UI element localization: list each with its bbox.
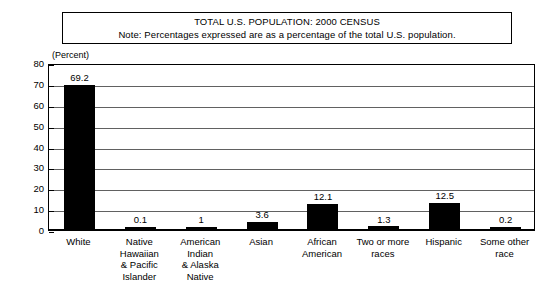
x-axis-category-label-line: Islander xyxy=(109,271,170,283)
bar-value-label: 12.5 xyxy=(414,190,475,201)
x-axis-category-label: Some otherrace xyxy=(474,236,535,259)
x-axis-category-label-line: Asian xyxy=(231,236,292,248)
x-axis-category-label-line: American xyxy=(170,236,231,248)
x-axis-category-label: Two or moreraces xyxy=(352,236,413,259)
chart-note: Note: Percentages expressed are as a per… xyxy=(118,28,455,41)
x-axis-category-label-line: race xyxy=(474,248,535,260)
y-axis-tick-label: 80 xyxy=(14,59,44,69)
chart-title: TOTAL U.S. POPULATION: 2000 CENSUS xyxy=(194,15,380,28)
x-axis-category-label-line: Some other xyxy=(474,236,535,248)
x-axis-category-label-line: & Pacific xyxy=(109,259,170,271)
x-axis-category-label: NativeHawaiian& PacificIslander xyxy=(109,236,170,282)
bar-value-label: 3.6 xyxy=(232,209,293,220)
x-axis-category-label-line: Native xyxy=(109,236,170,248)
y-axis-tick-label: 30 xyxy=(14,163,44,173)
y-axis-tick-label: 40 xyxy=(14,143,44,153)
y-axis-tick-label: 50 xyxy=(14,122,44,132)
x-axis-category-label-line: Native xyxy=(170,271,231,283)
x-axis-category-label: AfricanAmerican xyxy=(292,236,353,259)
x-axis-category-label-line: African xyxy=(292,236,353,248)
x-axis-category-label-line: American xyxy=(292,248,353,260)
x-axis-category-label-line: Hispanic xyxy=(413,236,474,248)
x-axis-category-label: Asian xyxy=(231,236,292,248)
bar-value-label: 1 xyxy=(171,214,232,225)
x-axis-category-label-line: Hawaiian xyxy=(109,248,170,260)
bar-value-labels: 69.20.113.612.11.312.50.2 xyxy=(49,65,534,229)
y-axis-labels: 01020304050607080 xyxy=(14,64,44,231)
y-axis-tick-label: 0 xyxy=(14,226,44,236)
y-axis-tick-label: 20 xyxy=(14,184,44,194)
chart-title-box: TOTAL U.S. POPULATION: 2000 CENSUS Note:… xyxy=(62,12,512,44)
x-axis-category-label-line: & Alaska xyxy=(170,259,231,271)
x-axis-category-label: AmericanIndian& AlaskaNative xyxy=(170,236,231,282)
bar-value-label: 12.1 xyxy=(293,191,354,202)
x-axis-category-label: White xyxy=(48,236,109,248)
bar-value-label: 69.2 xyxy=(49,72,110,83)
y-axis-tick-mark xyxy=(49,232,54,233)
y-axis-tick-label: 60 xyxy=(14,101,44,111)
bar-value-label: 1.3 xyxy=(353,214,414,225)
bar-value-label: 0.1 xyxy=(110,214,171,225)
plot-area: 69.20.113.612.11.312.50.2 xyxy=(48,64,535,231)
x-axis-category-label-line: Two or more xyxy=(352,236,413,248)
x-axis-category-label-line: Indian xyxy=(170,248,231,260)
bar-value-label: 0.2 xyxy=(475,214,536,225)
x-axis-category-label: Hispanic xyxy=(413,236,474,248)
x-axis-category-label-line: White xyxy=(48,236,109,248)
y-axis-unit-caption: (Percent) xyxy=(52,50,89,61)
y-axis-tick-label: 70 xyxy=(14,80,44,90)
x-axis-labels: WhiteNativeHawaiian& PacificIslanderAmer… xyxy=(48,236,535,298)
y-axis-tick-label: 10 xyxy=(14,205,44,215)
x-axis-category-label-line: races xyxy=(352,248,413,260)
